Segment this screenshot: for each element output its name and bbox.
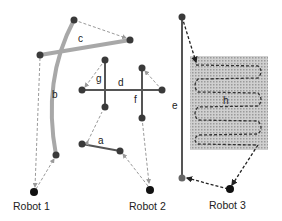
node	[79, 141, 86, 148]
node	[71, 17, 78, 24]
edge-label-e: e	[172, 100, 178, 111]
transition-robot1-start	[36, 159, 54, 189]
edge-label-h: h	[223, 95, 229, 106]
edge-label-f: f	[134, 94, 137, 105]
node	[139, 115, 146, 122]
transition-g	[85, 60, 105, 87]
edge-label-a: a	[98, 135, 104, 146]
node	[179, 175, 186, 182]
edge-label-d: d	[118, 77, 124, 88]
robot-1-label: Robot 1	[13, 200, 50, 212]
robot-3-label: Robot 3	[209, 199, 246, 211]
transition-robot2-a	[123, 154, 148, 186]
robot-3-marker	[226, 185, 234, 193]
edge-label-c: c	[78, 33, 83, 44]
node	[79, 87, 86, 94]
node	[102, 57, 109, 64]
node	[53, 152, 60, 159]
edge-c	[40, 40, 130, 55]
node	[37, 52, 44, 59]
transition-d-f	[145, 71, 162, 90]
node	[139, 65, 146, 72]
node	[179, 14, 186, 21]
robot-coverage-diagram: a b c d e f g h Robot 1 Robot 2 Robot 3	[0, 0, 282, 221]
robot-1-marker	[30, 188, 38, 196]
node	[159, 87, 166, 94]
edge-label-b: b	[52, 89, 58, 100]
robot-2-label: Robot 2	[129, 200, 166, 212]
edge-b	[52, 20, 74, 155]
transition-e-h	[182, 17, 196, 62]
edge-label-g: g	[96, 73, 102, 84]
robot-2-marker	[146, 186, 154, 194]
transition-robot1-down	[35, 58, 40, 187]
node	[102, 104, 109, 111]
coverage-area-h	[190, 56, 268, 150]
transition-robot3-e	[187, 178, 228, 189]
node	[117, 148, 124, 155]
node	[127, 37, 134, 44]
transition-h-robot3	[232, 145, 258, 185]
transition-f-robot2	[142, 118, 149, 183]
